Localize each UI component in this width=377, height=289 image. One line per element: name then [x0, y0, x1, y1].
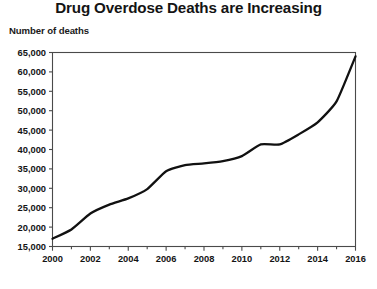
y-tick-label: 45,000: [18, 126, 46, 136]
y-tick-label: 25,000: [18, 203, 46, 213]
y-tick-group: 65,00060,00055,00050,00045,00040,00035,0…: [18, 48, 53, 252]
plot-area: 65,00060,00055,00050,00045,00040,00035,0…: [0, 0, 377, 289]
x-tick-label: 2010: [232, 254, 253, 264]
x-tick-label: 2014: [307, 254, 329, 264]
data-line: [53, 56, 356, 238]
y-tick-label: 20,000: [18, 223, 46, 233]
y-tick-label: 15,000: [18, 242, 46, 252]
x-tick-label: 2002: [80, 254, 101, 264]
y-tick-label: 65,000: [18, 48, 46, 58]
x-tick-label: 2012: [269, 254, 290, 264]
y-tick-label: 60,000: [18, 67, 46, 77]
chart-figure: Drug Overdose Deaths are Increasing Numb…: [0, 0, 377, 289]
y-tick-label: 55,000: [18, 87, 46, 97]
x-tick-label: 2000: [42, 254, 63, 264]
axis-frame: [53, 53, 356, 247]
x-tick-label: 2004: [118, 254, 140, 264]
x-tick-label: 2008: [194, 254, 215, 264]
x-tick-label: 2016: [345, 254, 366, 264]
y-tick-label: 40,000: [18, 145, 46, 155]
data-series-group: [53, 56, 356, 238]
plot-frame: [53, 53, 356, 247]
y-tick-label: 30,000: [18, 184, 46, 194]
x-tick-group: 200020022004200620082010201220142016: [42, 247, 366, 264]
x-tick-label: 2006: [156, 254, 177, 264]
y-tick-label: 35,000: [18, 164, 46, 174]
y-tick-label: 50,000: [18, 106, 46, 116]
